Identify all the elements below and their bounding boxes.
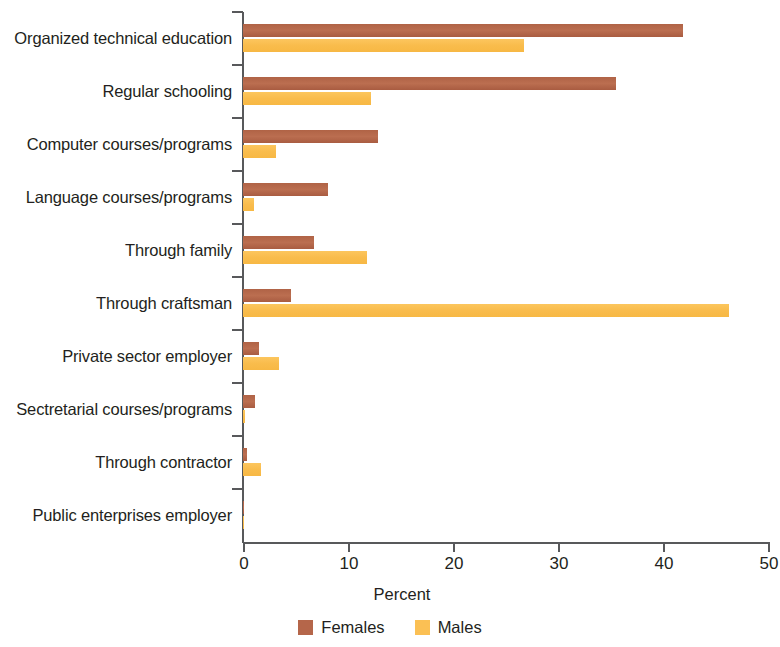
category-label: Organized technical education: [14, 12, 232, 65]
bar-females: [243, 130, 378, 143]
x-axis-tick: [663, 543, 665, 552]
legend-swatch-icon: [415, 620, 430, 635]
legend-label: Females: [321, 618, 384, 637]
bar-males: [243, 198, 254, 211]
chart-category-row: Regular schooling: [0, 65, 780, 118]
legend-item-males[interactable]: Males: [415, 618, 482, 637]
y-axis-tick: [232, 488, 243, 490]
legend-item-females[interactable]: Females: [298, 618, 384, 637]
legend-label: Males: [438, 618, 482, 637]
x-axis-ticks: 01020304050: [0, 543, 780, 583]
chart-category-row: Language courses/programs: [0, 171, 780, 224]
chart-category-row: Sectretarial courses/programs: [0, 383, 780, 436]
category-bars: [243, 171, 780, 224]
x-axis-tick: [558, 543, 560, 552]
bar-males: [243, 304, 729, 317]
x-axis-tick: [768, 543, 770, 552]
y-axis-tick: [232, 170, 243, 172]
chart-category-row: Through family: [0, 224, 780, 277]
x-axis-title: Percent: [0, 585, 780, 604]
chart-category-row: Organized technical education: [0, 12, 780, 65]
y-axis-tick: [232, 382, 243, 384]
x-axis-tick-label: 50: [760, 554, 779, 574]
x-axis-tick: [453, 543, 455, 552]
x-axis-tick: [348, 543, 350, 552]
category-label: Private sector employer: [62, 330, 232, 383]
category-label: Sectretarial courses/programs: [16, 383, 232, 436]
bar-males: [243, 251, 367, 264]
y-axis-tick: [232, 435, 243, 437]
y-axis-tick: [232, 329, 243, 331]
bar-males: [243, 463, 261, 476]
chart-category-row: Through contractor: [0, 436, 780, 489]
y-axis-tick: [232, 64, 243, 66]
chart-legend: FemalesMales: [0, 618, 780, 637]
x-axis-tick: [243, 543, 245, 552]
bar-females: [243, 24, 683, 37]
bar-males: [243, 516, 244, 529]
bar-males: [243, 357, 279, 370]
y-axis-tick: [232, 223, 243, 225]
x-axis-tick-label: 10: [340, 554, 359, 574]
bar-females: [243, 395, 255, 408]
x-axis-tick-label: 0: [239, 554, 248, 574]
category-bars: [243, 118, 780, 171]
y-axis-tick: [232, 117, 243, 119]
x-axis-tick-label: 20: [445, 554, 464, 574]
chart-category-row: Through craftsman: [0, 277, 780, 330]
y-axis-tick: [232, 276, 243, 278]
bar-males: [243, 145, 276, 158]
category-bars: [243, 65, 780, 118]
x-axis-tick-label: 30: [550, 554, 569, 574]
category-label: Computer courses/programs: [27, 118, 232, 171]
legend-swatch-icon: [298, 620, 313, 635]
category-bars: [243, 224, 780, 277]
bar-females: [243, 236, 314, 249]
category-label: Through contractor: [95, 436, 232, 489]
x-axis-title-label: Percent: [374, 585, 431, 603]
chart-category-rows: Organized technical educationRegular sch…: [0, 12, 780, 542]
category-bars: [243, 277, 780, 330]
category-bars: [243, 436, 780, 489]
bar-females: [243, 289, 291, 302]
bar-females: [243, 342, 259, 355]
category-label: Through family: [125, 224, 232, 277]
category-label: Regular schooling: [102, 65, 232, 118]
category-label: Language courses/programs: [26, 171, 232, 224]
category-bars: [243, 489, 780, 542]
bar-females: [243, 77, 616, 90]
category-label: Public enterprises employer: [32, 489, 232, 542]
y-axis-tick: [232, 11, 243, 13]
x-axis-tick-label: 40: [655, 554, 674, 574]
bar-males: [243, 39, 524, 52]
bar-females: [243, 501, 244, 514]
bar-females: [243, 448, 247, 461]
bar-males: [243, 410, 245, 423]
category-bars: [243, 330, 780, 383]
category-bars: [243, 383, 780, 436]
bar-chart: Organized technical educationRegular sch…: [0, 0, 780, 647]
category-bars: [243, 12, 780, 65]
chart-category-row: Public enterprises employer: [0, 489, 780, 542]
bar-males: [243, 92, 371, 105]
bar-females: [243, 183, 328, 196]
category-label: Through craftsman: [96, 277, 232, 330]
chart-category-row: Computer courses/programs: [0, 118, 780, 171]
chart-category-row: Private sector employer: [0, 330, 780, 383]
